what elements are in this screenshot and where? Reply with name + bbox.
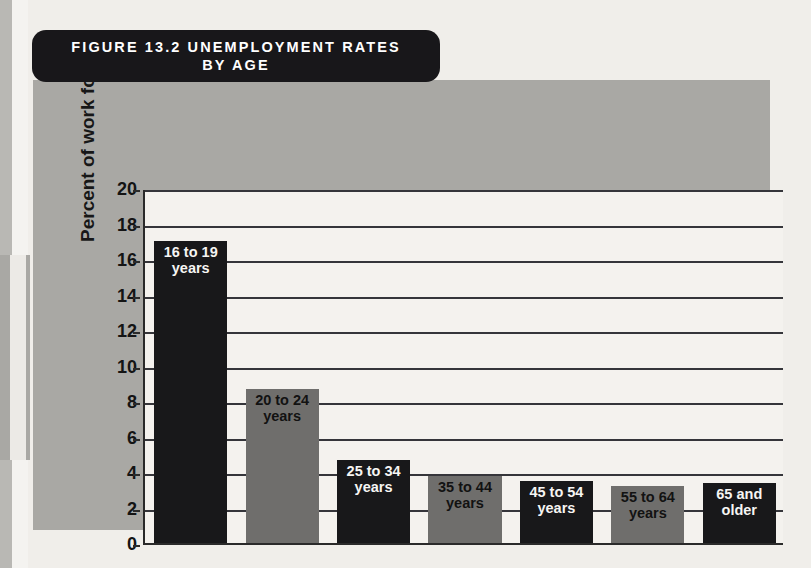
y-tick-label: 16: [101, 250, 137, 271]
scan-artifact-block-inner: [10, 255, 26, 460]
y-tick-label: 4: [101, 463, 137, 484]
bar-20-to-24-years: 20 to 24 years: [246, 389, 319, 543]
y-axis-tick-labels: 02468101214161820: [95, 190, 137, 545]
y-tick-label: 18: [101, 215, 137, 236]
bar-25-to-34-years: 25 to 34 years: [337, 460, 410, 543]
bar-label: 20 to 24 years: [255, 392, 309, 424]
y-tick-mark: [133, 261, 140, 263]
y-tick-label: 20: [101, 179, 137, 200]
bar-65-and-older: 65 and older: [703, 483, 776, 543]
y-tick-label: 2: [101, 499, 137, 520]
bar-35-to-44-years: 35 to 44 years: [428, 476, 501, 543]
y-tick-label: 0: [101, 534, 137, 555]
bar-45-to-54-years: 45 to 54 years: [520, 481, 593, 543]
y-tick-label: 10: [101, 357, 137, 378]
y-tick-label: 14: [101, 286, 137, 307]
bar-16-to-19-years: 16 to 19 years: [154, 241, 227, 543]
bar-55-to-64-years: 55 to 64 years: [611, 486, 684, 543]
y-tick-mark: [133, 190, 140, 192]
y-tick-mark: [133, 368, 140, 370]
figure-title-line-2: BY AGE: [202, 56, 269, 74]
y-tick-mark: [133, 403, 140, 405]
bar-label: 65 and older: [716, 486, 762, 518]
bar-label: 25 to 34 years: [347, 463, 401, 495]
bar-label: 55 to 64 years: [621, 489, 675, 521]
y-tick-mark: [133, 439, 140, 441]
figure-panel: 16 to 19 years20 to 24 years25 to 34 yea…: [33, 80, 770, 530]
y-tick-mark: [133, 226, 140, 228]
y-tick-mark: [133, 474, 140, 476]
y-tick-mark: [133, 332, 140, 334]
plot-area: 16 to 19 years20 to 24 years25 to 34 yea…: [143, 190, 783, 545]
figure-title-banner: FIGURE 13.2 UNEMPLOYMENT RATES BY AGE: [32, 30, 440, 82]
y-tick-mark: [133, 297, 140, 299]
bar-label: 16 to 19 years: [164, 244, 218, 276]
y-tick-label: 8: [101, 392, 137, 413]
y-tick-label: 6: [101, 428, 137, 449]
bar-label: 35 to 44 years: [438, 479, 492, 511]
y-tick-label: 12: [101, 321, 137, 342]
figure-title-line-1: FIGURE 13.2 UNEMPLOYMENT RATES: [71, 38, 400, 56]
y-tick-mark: [133, 545, 140, 547]
y-tick-mark: [133, 510, 140, 512]
bar-label: 45 to 54 years: [529, 484, 583, 516]
bars-layer: 16 to 19 years20 to 24 years25 to 34 yea…: [145, 190, 783, 543]
